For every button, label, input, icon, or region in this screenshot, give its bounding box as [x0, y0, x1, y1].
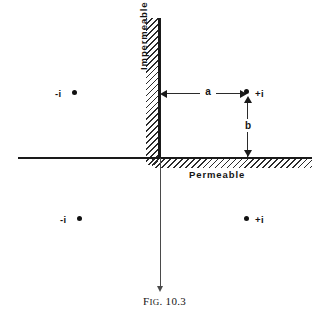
point-upper-left-image: [72, 90, 77, 95]
vertical-axis-arrowhead-icon: [157, 286, 163, 292]
point-upper-right-source-label: +i: [255, 88, 264, 99]
figure-10-3: Impermeable Permeable a b -i +i -i +i FI…: [0, 0, 329, 319]
point-lower-right-image-label: +i: [255, 214, 264, 225]
vertical-axis-boundary: [158, 18, 161, 159]
dimension-b-down-arrowhead-icon: [244, 150, 252, 157]
dimension-b-up-arrowhead-icon: [244, 96, 252, 103]
horizontal-axis: [18, 157, 312, 159]
caption-ig: IG: [149, 297, 159, 307]
dimension-a-left-arrowhead-icon: [160, 90, 167, 98]
permeable-boundary-hatch: [152, 159, 312, 168]
point-lower-right-image: [244, 216, 249, 221]
dimension-a-label: a: [200, 86, 216, 97]
caption-number: . 10.3: [159, 295, 186, 307]
figure-caption: FIG. 10.3: [0, 295, 329, 307]
dimension-b-label: b: [241, 119, 255, 132]
point-upper-right-source: [244, 89, 249, 94]
point-lower-left-image-label: -i: [60, 214, 67, 225]
impermeable-label: Impermeable: [138, 0, 149, 70]
vertical-axis: [160, 158, 161, 290]
point-lower-left-image: [77, 216, 82, 221]
point-upper-left-image-label: -i: [55, 88, 62, 99]
permeable-label: Permeable: [189, 169, 245, 180]
